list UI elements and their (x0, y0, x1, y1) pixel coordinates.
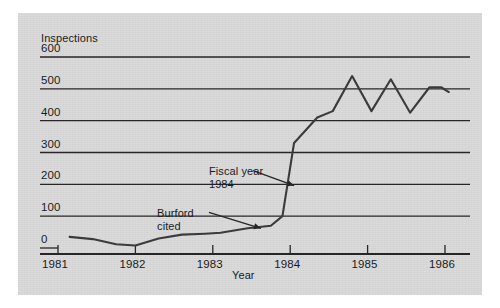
y-tick-label: 100 (41, 201, 61, 214)
x-tick-label: 1983 (197, 258, 223, 271)
x-tick-label: 1986 (429, 258, 455, 271)
chart-plot-area (0, 0, 500, 308)
chart-figure: Inspections Year 0100200300400500600 198… (0, 0, 500, 308)
annotation-arrow-shaft (209, 212, 261, 228)
y-tick-label: 600 (41, 42, 61, 55)
annotation-burford-cited: Burford cited (157, 207, 194, 233)
annotation-line-1: Fiscal year (209, 165, 263, 178)
series-line (70, 76, 449, 245)
y-tick-label: 400 (41, 106, 61, 119)
y-tick-label: 200 (41, 169, 61, 182)
x-tick-label: 1985 (352, 258, 378, 271)
annotation-fiscal-year-1984: Fiscal year 1984 (209, 165, 263, 191)
y-tick-label: 500 (41, 74, 61, 87)
x-tick-label: 1984 (274, 258, 300, 271)
y-tick-label: 300 (41, 138, 61, 151)
x-axis-label: Year (232, 269, 255, 282)
x-tick-label: 1982 (119, 258, 145, 271)
x-tick-label: 1981 (42, 258, 68, 271)
y-tick-label: 0 (41, 233, 48, 246)
annotation-line-2: 1984 (209, 178, 263, 191)
series-group (70, 76, 449, 245)
axis-group (40, 245, 470, 254)
annotation-line-2: cited (157, 220, 194, 233)
gridlines-group (40, 57, 470, 216)
annotation-line-1: Burford (157, 207, 194, 220)
